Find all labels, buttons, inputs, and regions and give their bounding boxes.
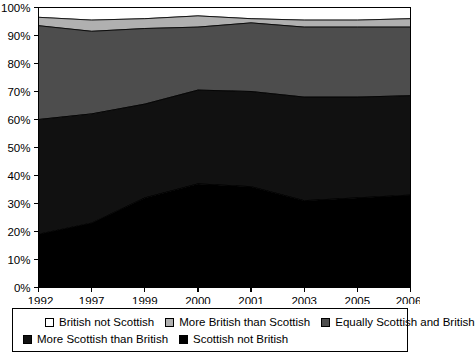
x-tick-label: 2003 — [291, 295, 317, 305]
legend-item[interactable]: British not Scottish — [45, 316, 154, 329]
y-tick-label: 20% — [7, 226, 30, 238]
legend-swatch-icon — [23, 335, 32, 344]
legend-item[interactable]: Scottish not British — [179, 333, 288, 346]
legend-swatch-icon — [179, 335, 188, 344]
legend-label: More British than Scottish — [179, 316, 310, 329]
chart-canvas: 0%10%20%30%40%50%60%70%80%90%100% 199219… — [0, 0, 420, 304]
y-tick-label: 0% — [14, 282, 31, 294]
x-tick-label: 2006 — [396, 295, 420, 305]
legend-item[interactable]: More Scottish than British — [23, 333, 168, 346]
legend-swatch-icon — [165, 318, 174, 327]
x-tick-label: 2000 — [185, 295, 211, 305]
legend-item[interactable]: More British than Scottish — [165, 316, 310, 329]
x-axis-tick-labels: 19921997199920002001200320052006 — [28, 295, 420, 305]
y-tick-label: 80% — [7, 58, 30, 70]
legend-label: Equally Scottish and British — [335, 316, 474, 329]
y-tick-label: 100% — [1, 2, 30, 14]
legend-label: British not Scottish — [59, 316, 154, 329]
y-tick-label: 40% — [7, 170, 30, 182]
y-tick-label: 30% — [7, 198, 30, 210]
y-tick-label: 60% — [7, 114, 30, 126]
y-tick-label: 70% — [7, 86, 30, 98]
legend-row-1: British not ScottishMore British than Sc… — [19, 314, 401, 331]
x-tick-label: 2005 — [345, 295, 371, 305]
x-tick-label: 1999 — [132, 295, 158, 305]
chart-legend: British not ScottishMore British than Sc… — [12, 308, 408, 352]
y-tick-label: 50% — [7, 142, 30, 154]
x-tick-label: 1997 — [79, 295, 105, 305]
area-bands — [39, 8, 411, 288]
stacked-area-chart: 0%10%20%30%40%50%60%70%80%90%100% 199219… — [0, 0, 420, 304]
x-tick-label: 2001 — [238, 295, 264, 305]
y-axis-tick-labels: 0%10%20%30%40%50%60%70%80%90%100% — [1, 2, 30, 294]
legend-row-2: More Scottish than BritishScottish not B… — [19, 331, 401, 348]
legend-item[interactable]: Equally Scottish and British — [321, 316, 474, 329]
legend-label: More Scottish than British — [37, 333, 168, 346]
legend-swatch-icon — [321, 318, 330, 327]
x-tick-label: 1992 — [28, 295, 54, 305]
y-tick-label: 90% — [7, 30, 30, 42]
y-tick-label: 10% — [7, 254, 30, 266]
legend-label: Scottish not British — [193, 333, 288, 346]
legend-swatch-icon — [45, 318, 54, 327]
